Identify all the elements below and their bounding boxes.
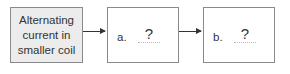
box-b-label: b.	[213, 31, 223, 43]
box-a-label: a.	[117, 31, 127, 43]
box-alternating-current: Alternating current in smaller coil	[10, 7, 83, 63]
box-a-answer-blank: ?	[138, 25, 160, 43]
arrow-right-icon	[179, 31, 201, 32]
box-b-answer-blank: ?	[234, 25, 256, 43]
box-a: a. ?	[107, 7, 179, 63]
arrow-right-icon	[83, 31, 105, 32]
box-alternating-current-text: Alternating current in smaller coil	[18, 13, 76, 58]
box-b: b. ?	[203, 7, 275, 63]
